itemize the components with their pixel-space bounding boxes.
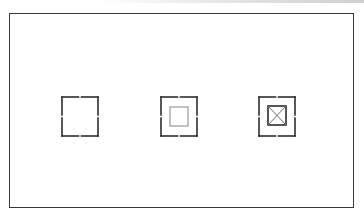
inner-square-icon bbox=[170, 107, 188, 126]
figure-box-1 bbox=[60, 95, 100, 138]
figure-box-3 bbox=[257, 95, 297, 138]
top-edge-strip bbox=[100, 0, 364, 3]
segmented-square-with-crossed-square-icon bbox=[257, 95, 297, 138]
crossed-square-icon bbox=[268, 106, 286, 125]
segmented-square-icon bbox=[60, 95, 100, 138]
segmented-square-with-inner-square-icon bbox=[159, 95, 199, 138]
figure-box-2 bbox=[159, 95, 199, 138]
